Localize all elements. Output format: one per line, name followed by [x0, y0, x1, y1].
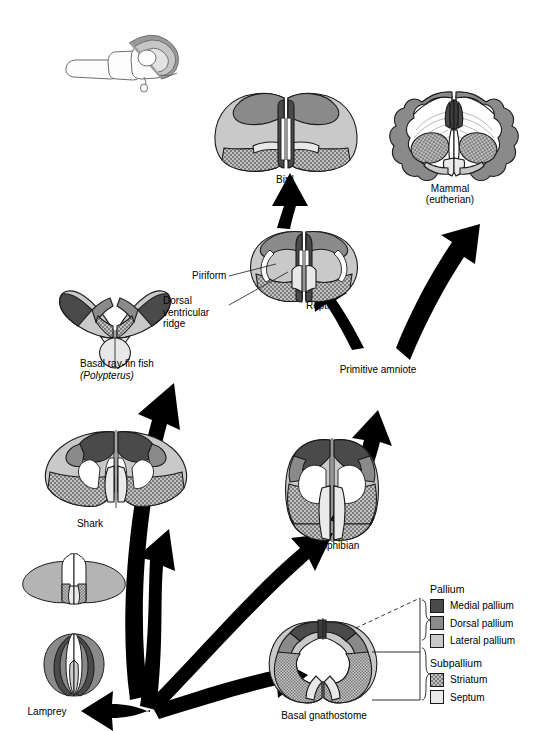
- swatch-dorsal-pallium: [430, 616, 444, 630]
- swatch-striatum: [430, 673, 444, 687]
- legend-label-medial-pallium: Medial pallium: [450, 600, 514, 611]
- section-basal-gnathostome: [269, 618, 377, 703]
- legend-title-pallium: Pallium: [430, 583, 542, 595]
- section-mammal: [390, 92, 519, 181]
- label-mammal-sub: (eutherian): [426, 194, 474, 206]
- legend-label-striatum: Striatum: [450, 674, 487, 685]
- legend-label-septum: Septum: [450, 692, 484, 703]
- label-mammal: Mammal: [431, 183, 469, 195]
- section-lamprey: [44, 634, 104, 696]
- label-basal-gnathostome: Basal gnathostome: [281, 710, 367, 722]
- legend-label-dorsal-pallium: Dorsal pallium: [450, 618, 513, 629]
- label-shark: Shark: [77, 518, 103, 530]
- callout-dorsal-ventricular-ridge: Dorsal ventricular ridge: [163, 295, 209, 330]
- swatch-medial-pallium: [430, 599, 444, 613]
- legend-item-striatum: Striatum: [430, 672, 542, 687]
- section-basal-rayfin-fish: [60, 291, 171, 368]
- section-bird: [215, 93, 357, 171]
- legend-item-medial-pallium: Medial pallium: [430, 598, 542, 613]
- label-basal-rayfin-fish-sub: (Polypterus): [80, 370, 134, 382]
- legend-item-dorsal-pallium: Dorsal pallium: [430, 616, 542, 631]
- arrow-amniote-to-mammal: [396, 224, 480, 360]
- label-primitive-amniote: Primitive amniote: [340, 364, 417, 376]
- label-bird: Bird: [276, 174, 294, 186]
- label-reptile: Reptile: [306, 300, 337, 312]
- callout-piriform: Piriform: [192, 270, 226, 282]
- diagram-canvas: Bird Mammal (eutherian) Reptile Basal ra…: [0, 0, 546, 731]
- label-basal-rayfin-fish: Basal ray-fin fish: [80, 358, 154, 370]
- brain-orientation-inset: [66, 35, 179, 92]
- legend-title-subpallium: Subpallium: [430, 657, 542, 669]
- legend-group-subpallium: Subpallium Striatum Septum: [430, 657, 542, 705]
- legend-group-pallium: Pallium Medial pallium Dorsal pallium La…: [430, 583, 542, 648]
- swatch-septum: [430, 690, 444, 704]
- legend: Pallium Medial pallium Dorsal pallium La…: [430, 583, 542, 707]
- label-amphibian: Amphibian: [312, 540, 359, 552]
- section-shark: [45, 430, 186, 508]
- legend-item-lateral-pallium: Lateral pallium: [430, 633, 542, 648]
- label-lamprey: Lamprey: [28, 706, 67, 718]
- section-unlabeled-agnathan: [23, 554, 126, 604]
- section-amphibian: [286, 438, 379, 542]
- legend-item-septum: Septum: [430, 690, 542, 705]
- legend-label-lateral-pallium: Lateral pallium: [450, 635, 515, 646]
- swatch-lateral-pallium: [430, 634, 444, 648]
